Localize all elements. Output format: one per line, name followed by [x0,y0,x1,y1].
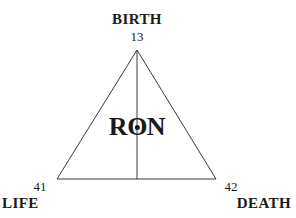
vertex-number-birth: 13 [131,30,144,43]
center-wordmark: R O N [109,114,165,140]
vertex-label-life: LIFE [2,196,39,211]
diagram-canvas: BIRTH 13 41 LIFE 42 DEATH R O N [0,0,296,218]
vertex-number-life: 41 [34,180,47,193]
center-letter-n: N [147,114,165,140]
center-letter-r: R [109,114,127,140]
vertex-label-birth: BIRTH [112,12,162,27]
vertex-label-death: DEATH [237,196,291,211]
center-letter-o-circled-dot-icon: O [127,114,147,140]
vertex-number-death: 42 [225,180,238,193]
center-dot-icon [134,125,139,130]
